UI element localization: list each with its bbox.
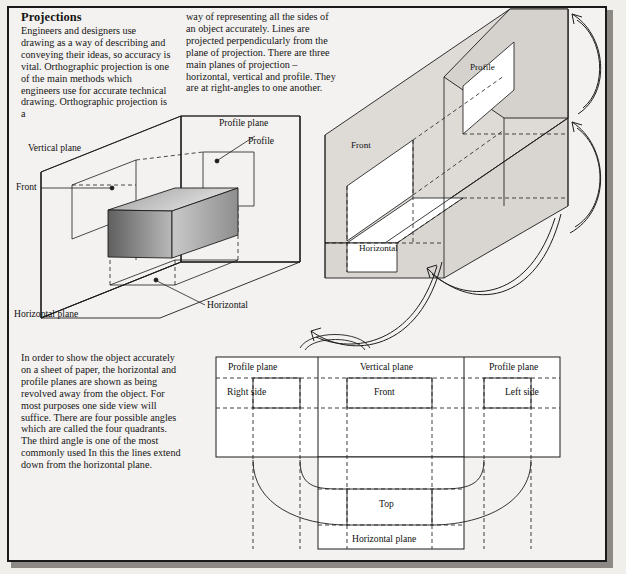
layout-label-right-side: Right side	[227, 387, 266, 398]
label-profile-plane: Profile plane	[219, 118, 268, 129]
layout-label-front: Front	[374, 387, 395, 398]
page-root: Projections Engineers and designers use …	[0, 0, 626, 574]
label-unfold-profile: Profile	[470, 62, 495, 73]
label-horizontal: Horizontal	[207, 300, 248, 311]
label-unfold-front: Front	[351, 140, 371, 151]
label-profile: Profile	[248, 136, 274, 147]
intro-column-left: Projections Engineers and designers use …	[21, 11, 171, 120]
intro-paragraph-right: way of representing all the sides of an …	[186, 11, 336, 94]
layout-label-top: Top	[379, 499, 394, 510]
intro-column-right: way of representing all the sides of an …	[186, 11, 336, 94]
layout-header-vertical-plane: Vertical plane	[360, 362, 413, 373]
page-title: Projections	[21, 11, 171, 24]
layout-label-left-side: Left side	[505, 387, 539, 398]
lower-paragraph: In order to show the object accurately o…	[21, 352, 181, 471]
label-front: Front	[16, 182, 37, 193]
label-unfold-horizontal: Horizontal	[359, 243, 398, 254]
layout-header-left-profile-plane: Profile plane	[228, 362, 277, 373]
intro-paragraph-left: Engineers and designers use drawing as a…	[21, 25, 171, 120]
label-vertical-plane: Vertical plane	[28, 143, 81, 154]
layout-label-horizontal-plane: Horizontal plane	[352, 534, 416, 545]
lower-explanation-column: In order to show the object accurately o…	[21, 352, 181, 471]
layout-header-right-profile-plane: Profile plane	[489, 362, 538, 373]
label-horizontal-plane: Horizontal plane	[14, 309, 78, 320]
